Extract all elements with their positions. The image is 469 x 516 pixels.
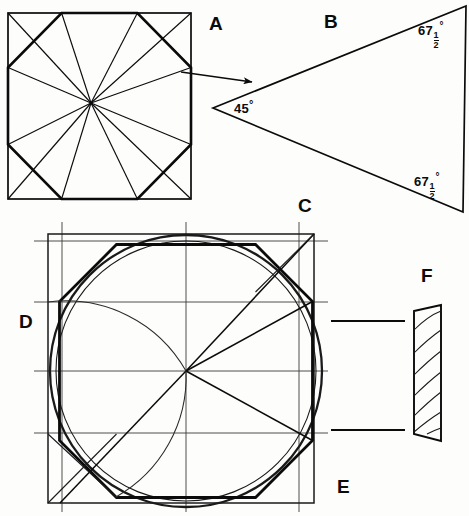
- octagon-radii: [60, 234, 314, 503]
- panel-f-group: [414, 305, 441, 441]
- angle-label-base-upper: 67 1 2 °: [418, 21, 444, 50]
- detail-leader-lines: [331, 321, 405, 430]
- panel-label-b: B: [324, 12, 338, 31]
- drawing-plate: A B C D E F 45° 67 1 2 ° 67 1 2 °: [0, 0, 469, 516]
- fraction-denominator: 2: [434, 40, 439, 50]
- angle-base-upper-fraction: 1 2: [434, 31, 439, 50]
- angle-base-lower-fraction: 1 2: [430, 182, 435, 201]
- angle-label-apex: 45°: [234, 99, 253, 115]
- fraction-numerator: 1: [430, 182, 435, 191]
- angle-apex-value: 45: [234, 101, 249, 116]
- panel-label-f: F: [421, 266, 433, 285]
- angle-base-lower-whole: 67: [414, 174, 429, 189]
- angle-apex-degree-symbol: °: [249, 98, 253, 110]
- construction-arcs: [48, 301, 186, 497]
- fraction-denominator: 2: [430, 191, 435, 201]
- angle-base-upper-whole: 67: [418, 23, 433, 38]
- angle-base-lower-degree-symbol: °: [436, 171, 440, 182]
- angle-base-upper-degree-symbol: °: [440, 20, 444, 31]
- panel-label-a: A: [209, 14, 223, 33]
- panel-label-c: C: [298, 196, 312, 215]
- panel-label-e: E: [337, 477, 350, 496]
- panel-cde-group: [34, 222, 328, 512]
- angle-label-base-lower: 67 1 2 °: [414, 172, 440, 201]
- fraction-numerator: 1: [434, 31, 439, 40]
- panel-a-group: [8, 13, 191, 199]
- plate-linework: [0, 0, 469, 516]
- panel-label-d: D: [19, 312, 33, 331]
- taper-strip-hatching: [414, 311, 441, 434]
